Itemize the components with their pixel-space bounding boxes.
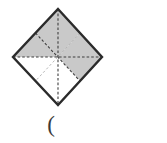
- figure-container: (: [0, 0, 167, 143]
- caption-paren: (: [40, 110, 62, 140]
- folded-square-diagram: [0, 0, 167, 143]
